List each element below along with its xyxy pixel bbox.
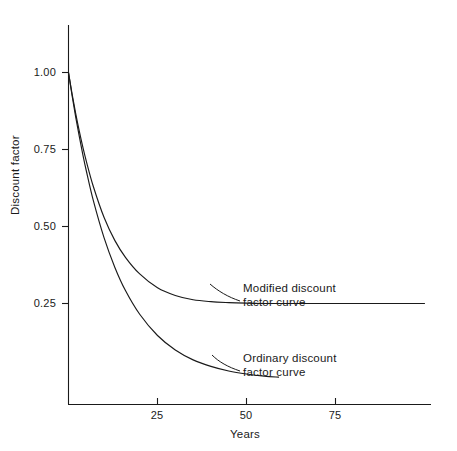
y-tick-label-3: 0.50 xyxy=(24,220,56,232)
chart-figure: 1.00 0.75 0.50 0.25 25 50 75 Discount fa… xyxy=(0,0,457,451)
x-tick-label-1: 25 xyxy=(151,409,164,421)
x-tick-label-3: 75 xyxy=(329,409,342,421)
annotation-modified-line1: Modified discount xyxy=(243,281,336,295)
x-tick-marks xyxy=(158,398,336,405)
curve-ordinary-discount-factor xyxy=(69,73,279,378)
y-tick-label-4: 0.25 xyxy=(24,297,56,309)
annotation-modified-line2: factor curve xyxy=(243,295,336,309)
annotation-modified-curve: Modified discount factor curve xyxy=(243,281,336,309)
y-tick-label-2: 0.75 xyxy=(24,143,56,155)
annotation-ordinary-line1: Ordinary discount xyxy=(243,351,337,365)
x-axis-title: Years xyxy=(230,428,260,440)
annotation-ordinary-line2: factor curve xyxy=(243,365,337,379)
chart-canvas xyxy=(0,0,457,451)
curve-modified-discount-factor xyxy=(69,73,425,304)
leader-line-ordinary xyxy=(212,355,240,371)
leader-line-modified xyxy=(210,284,240,301)
y-tick-label-1: 1.00 xyxy=(24,66,56,78)
x-tick-label-2: 50 xyxy=(240,409,253,421)
y-axis-title: Discount factor xyxy=(9,135,21,215)
y-tick-marks xyxy=(62,73,69,304)
annotation-ordinary-curve: Ordinary discount factor curve xyxy=(243,351,337,379)
